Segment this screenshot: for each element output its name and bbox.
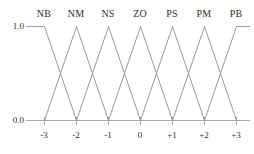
set-label-pm: PM: [197, 9, 212, 19]
x-tick-label-pos3: +3: [231, 131, 241, 140]
membership-curve-ns: [77, 27, 141, 121]
set-label-zo: ZO: [133, 9, 147, 19]
set-label-nm: NM: [68, 9, 85, 19]
set-label-nb: NB: [37, 9, 51, 19]
membership-function-chart: 1.0 0.0 -3 -2 -1 0 +1 +2 +3 NB NM NS ZO …: [0, 0, 254, 154]
set-label-ps: PS: [166, 9, 178, 19]
plot-area: [0, 0, 254, 154]
membership-curve-nm: [45, 27, 109, 121]
membership-curve-pm: [173, 27, 237, 121]
membership-curve-nb: [32, 27, 77, 121]
set-label-ns: NS: [101, 9, 114, 19]
set-label-pb: PB: [230, 9, 243, 19]
x-tick-label-neg3: -3: [40, 131, 48, 140]
x-tick-label-zero: 0: [138, 131, 143, 140]
x-tick-label-pos2: +2: [199, 131, 209, 140]
membership-curve-ps: [141, 27, 205, 121]
y-tick-label-bottom: 0.0: [0, 116, 24, 125]
membership-curve-zo: [109, 27, 173, 121]
x-tick-label-neg2: -2: [72, 131, 80, 140]
x-tick-label-neg1: -1: [104, 131, 112, 140]
x-tick-label-pos1: +1: [167, 131, 177, 140]
membership-curve-pb: [205, 27, 251, 121]
y-tick-label-top: 1.0: [0, 22, 24, 31]
